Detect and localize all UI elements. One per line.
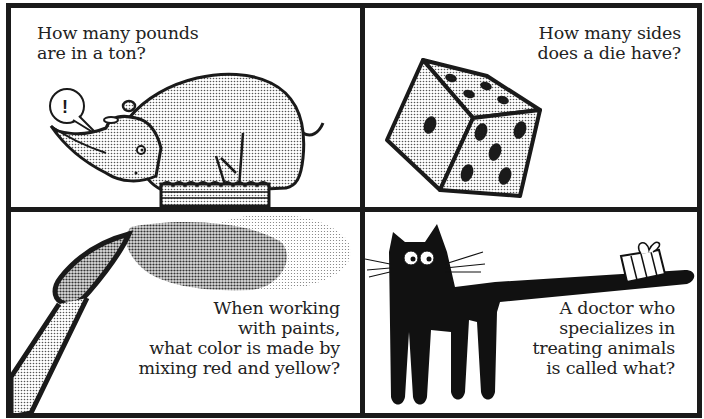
panel-bottom-left: When working with paints, what color is … bbox=[11, 212, 360, 413]
question-line: A doctor who bbox=[532, 298, 675, 318]
horizontal-divider bbox=[11, 207, 697, 212]
question-line: mixing red and yellow? bbox=[138, 358, 340, 378]
question-vet: A doctor who specializes in treating ani… bbox=[532, 298, 675, 378]
question-line: what color is made by bbox=[138, 338, 340, 358]
quiz-card-frame: How many pounds are in a ton? ! bbox=[6, 3, 702, 418]
question-line: is called what? bbox=[532, 358, 675, 378]
die-icon bbox=[365, 8, 697, 207]
speech-bubble-text: ! bbox=[62, 97, 68, 117]
question-line: specializes in bbox=[532, 318, 675, 338]
question-line: When working bbox=[138, 298, 340, 318]
question-line: with paints, bbox=[138, 318, 340, 338]
panel-top-right: How many sides does a die have? bbox=[365, 8, 697, 207]
rhino-icon: ! bbox=[11, 8, 360, 207]
panel-bottom-right: A doctor who specializes in treating ani… bbox=[365, 212, 697, 413]
panel-top-left: How many pounds are in a ton? ! bbox=[11, 8, 360, 207]
question-line: treating animals bbox=[532, 338, 675, 358]
question-paint: When working with paints, what color is … bbox=[138, 298, 340, 378]
